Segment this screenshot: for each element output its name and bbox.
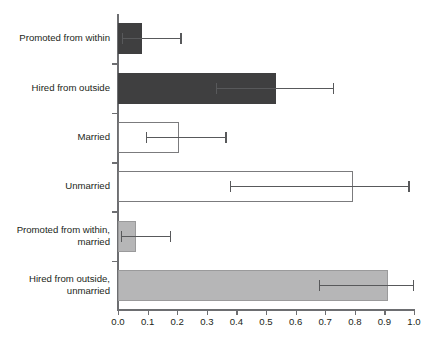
error-bar-cap-low bbox=[230, 181, 231, 192]
x-axis-tick-label: 0.4 bbox=[221, 316, 251, 327]
error-bar-cap-high bbox=[408, 181, 409, 192]
y-axis-tick bbox=[112, 261, 118, 263]
x-axis-tick bbox=[325, 310, 326, 315]
x-axis-tick-label: 0.0 bbox=[103, 316, 133, 327]
error-bar-cap-high bbox=[413, 280, 414, 291]
y-axis-tick bbox=[112, 211, 118, 213]
error-bar-cap-high bbox=[225, 132, 226, 143]
x-axis-tick bbox=[236, 310, 237, 315]
error-bar-line bbox=[121, 236, 171, 237]
x-axis-tick bbox=[177, 310, 178, 315]
x-axis-tick bbox=[355, 310, 356, 315]
x-axis-tick bbox=[266, 310, 267, 315]
x-axis-tick-label: 1.0 bbox=[399, 316, 429, 327]
bar-row bbox=[118, 171, 414, 202]
y-axis-tick bbox=[112, 113, 118, 115]
x-axis-tick bbox=[384, 310, 385, 315]
y-axis-label: Hired from outside, unmarried bbox=[29, 273, 110, 298]
error-bar-cap-high bbox=[170, 231, 171, 242]
y-axis-tick bbox=[112, 162, 118, 164]
error-bar-line bbox=[216, 88, 334, 89]
error-bar-line bbox=[319, 285, 414, 286]
error-bar-cap-low bbox=[146, 132, 147, 143]
y-axis-label: Married bbox=[77, 131, 110, 144]
x-axis-tick-label: 0.9 bbox=[369, 316, 399, 327]
bar-row bbox=[118, 221, 414, 252]
bar-chart: Promoted from withinHired from outsideMa… bbox=[0, 0, 432, 342]
error-bar bbox=[121, 231, 171, 242]
error-bar-cap-high bbox=[180, 33, 181, 44]
error-bar-cap-low bbox=[122, 33, 123, 44]
error-bar bbox=[230, 181, 410, 192]
error-bar-cap-low bbox=[216, 83, 217, 94]
bar-row bbox=[118, 23, 414, 54]
plot-area bbox=[118, 14, 414, 310]
x-axis-tick bbox=[118, 310, 119, 315]
y-axis-tick bbox=[112, 63, 118, 65]
error-bar bbox=[122, 33, 182, 44]
y-axis-label: Hired from outside bbox=[32, 82, 110, 95]
x-axis-tick-label: 0.8 bbox=[340, 316, 370, 327]
bar-row bbox=[118, 270, 414, 301]
x-axis-tick-label: 0.1 bbox=[133, 316, 163, 327]
y-axis-label: Promoted from within, married bbox=[17, 224, 110, 249]
error-bar bbox=[146, 132, 227, 143]
x-axis-tick bbox=[414, 310, 415, 315]
x-axis-tick-label: 0.6 bbox=[281, 316, 311, 327]
bar-row bbox=[118, 122, 414, 153]
error-bar-line bbox=[230, 186, 410, 187]
x-axis-tick-label: 0.7 bbox=[310, 316, 340, 327]
error-bar bbox=[216, 83, 334, 94]
x-axis-tick-label: 0.3 bbox=[192, 316, 222, 327]
error-bar-cap-low bbox=[121, 231, 122, 242]
x-axis-tick bbox=[207, 310, 208, 315]
error-bar bbox=[319, 280, 414, 291]
x-axis-tick bbox=[296, 310, 297, 315]
y-axis-label: Unmarried bbox=[65, 180, 110, 193]
error-bar-cap-low bbox=[319, 280, 320, 291]
y-axis-label: Promoted from within bbox=[19, 32, 110, 45]
x-axis-tick-label: 0.2 bbox=[162, 316, 192, 327]
x-axis-tick-label: 0.5 bbox=[251, 316, 281, 327]
x-axis-tick bbox=[148, 310, 149, 315]
error-bar-cap-high bbox=[333, 83, 334, 94]
error-bar-line bbox=[146, 137, 227, 138]
bar-row bbox=[118, 73, 414, 104]
error-bar-line bbox=[122, 38, 182, 39]
